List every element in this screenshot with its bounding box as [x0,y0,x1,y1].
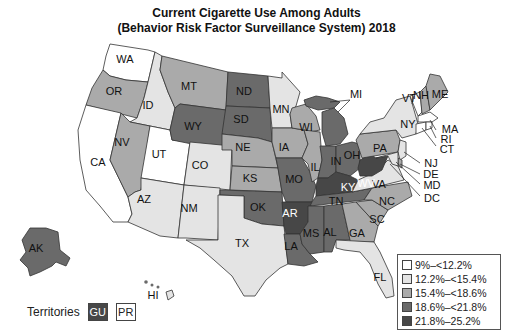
legend-item: 21.8%–25.2% [402,314,500,328]
legend: 9%–<12.2% 12.2%–<15.4% 15.4%–<18.6% 18.6… [397,254,501,330]
label-hi: HI [148,289,159,301]
label-dc: DC [424,192,440,204]
label-co: CO [192,159,209,171]
label-mo: MO [285,173,303,185]
label-pa: PA [373,142,388,154]
label-al: AL [323,226,336,238]
label-or: OR [106,85,123,97]
label-wa: WA [116,53,134,65]
legend-label: 9%–<12.2% [415,259,472,271]
label-fl: FL [374,271,387,283]
label-az: AZ [137,193,151,205]
label-ky: KY [341,181,356,193]
label-ia: IA [279,141,290,153]
hi-island [151,284,154,287]
territories: Territories GU PR [27,303,136,321]
legend-swatch [402,302,412,312]
state-mi[interactable] [322,108,348,146]
label-oh: OH [344,149,361,161]
label-ca: CA [90,156,106,168]
label-sc: SC [369,213,384,225]
label-ms: MS [303,227,320,239]
legend-item: 15.4%–<18.6% [402,286,500,300]
label-ny: NY [400,118,416,130]
label-nd: ND [236,85,252,97]
legend-label: 12.2%–<15.4% [415,273,487,285]
label-ar: AR [282,207,297,219]
legend-swatch [402,288,412,298]
leader-line [400,164,420,174]
label-in: IN [331,155,342,167]
state-nj[interactable] [398,140,406,160]
territory-pr[interactable]: PR [116,303,136,321]
legend-label: 21.8%–25.2% [415,315,480,327]
label-id: ID [143,99,154,111]
label-sd: SD [233,113,248,125]
state-ct[interactable] [416,122,426,134]
label-wv: WV [357,177,375,189]
label-ct: CT [440,143,455,155]
label-la: LA [284,240,298,252]
state-ak[interactable] [20,228,70,276]
label-mn: MN [272,103,289,115]
label-ok: OK [250,201,267,213]
label-ak: AK [29,242,44,254]
state-hi[interactable] [166,290,174,300]
label-nm: NM [180,202,197,214]
label-ne: NE [235,141,250,153]
label-md: MD [423,179,440,191]
state-fl[interactable] [336,240,394,298]
label-nh: NH [413,89,429,101]
label-tn: TN [329,195,344,207]
legend-swatch [402,260,412,270]
leader-line [430,126,436,138]
hi-island [144,280,148,284]
label-nc: NC [379,195,395,207]
legend-item: 12.2%–<15.4% [402,272,500,286]
label-me: ME [432,88,449,100]
territory-gu[interactable]: GU [88,303,108,321]
label-mi: MI [350,88,362,100]
legend-swatch [402,274,412,284]
label-wi: WI [299,121,312,133]
legend-label: 15.4%–<18.6% [415,287,487,299]
label-ks: KS [243,172,258,184]
label-mt: MT [181,80,197,92]
label-il: IL [310,161,319,173]
legend-item: 18.6%–<21.8% [402,300,500,314]
label-tx: TX [235,237,250,249]
label-ga: GA [349,227,366,239]
label-nv: NV [114,136,130,148]
leader-line [422,128,436,146]
leader-line [404,152,420,163]
legend-label: 18.6%–<21.8% [415,301,487,313]
territories-label: Territories [27,305,80,319]
label-wy: WY [184,120,202,132]
label-ut: UT [152,148,167,160]
legend-item: 9%–<12.2% [402,258,500,272]
legend-swatch [402,316,412,326]
